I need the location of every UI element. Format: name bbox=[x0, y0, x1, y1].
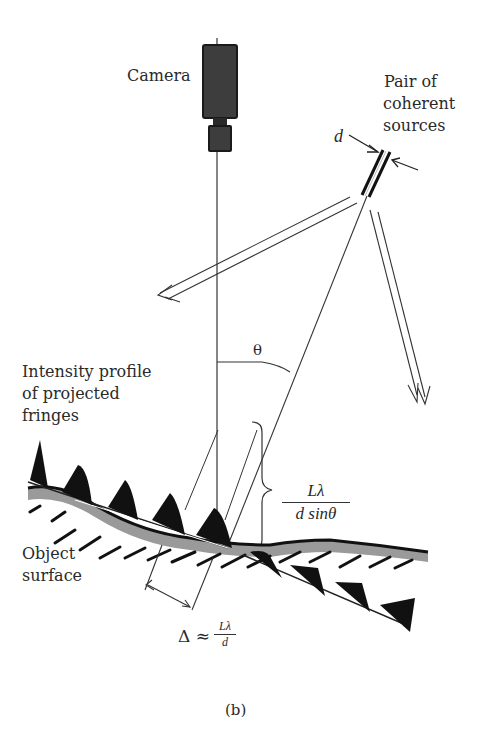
delta-dimension bbox=[145, 545, 213, 610]
coherent-sources-icon bbox=[349, 135, 418, 197]
camera-label: Camera bbox=[127, 66, 191, 86]
intensity-label-line2: of projected bbox=[22, 384, 120, 404]
intensity-label-line1: Intensity profile bbox=[22, 362, 152, 382]
figure-caption: (b) bbox=[225, 700, 246, 720]
fringe-peaks-lower bbox=[250, 551, 415, 632]
fringe-ray-2 bbox=[225, 430, 257, 520]
intensity-label-line3: fringes bbox=[22, 406, 79, 426]
fringe-spacing-denominator: d sinθ bbox=[282, 504, 350, 524]
fringe-spacing-numerator: Lλ bbox=[282, 481, 350, 501]
d-label: d bbox=[334, 126, 343, 146]
camera-icon bbox=[203, 45, 237, 151]
fraction-bar bbox=[282, 502, 350, 503]
theta-label: θ bbox=[253, 340, 262, 360]
delta-numerator: Lλ bbox=[214, 620, 236, 633]
theta-arc bbox=[217, 362, 290, 372]
fringe-ray-1 bbox=[185, 430, 218, 510]
sources-label-line3: sources bbox=[383, 116, 445, 136]
beam-arrow-left bbox=[158, 197, 357, 302]
sources-label-line1: Pair of bbox=[384, 72, 437, 92]
object-label-line2: surface bbox=[22, 566, 82, 586]
sources-label-line2: coherent bbox=[383, 94, 455, 114]
delta-prefix: Δ ≈ bbox=[178, 626, 210, 646]
object-label-line1: Object bbox=[22, 544, 75, 564]
beam-arrow-right bbox=[370, 210, 430, 404]
delta-formula: Lλ d bbox=[214, 620, 236, 649]
fringe-spacing-formula: Lλ d sinθ bbox=[282, 481, 350, 524]
delta-denominator: d bbox=[214, 636, 236, 649]
